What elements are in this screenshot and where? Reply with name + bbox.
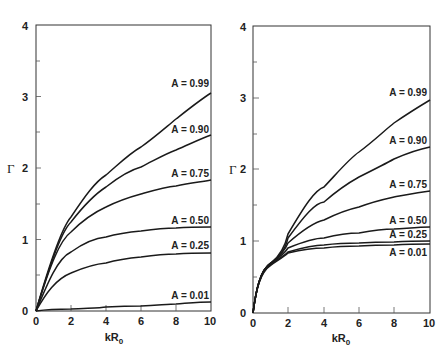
left-label-a099: A = 0.99 (171, 78, 209, 89)
right-xtick-10: 10 (423, 317, 435, 329)
left-y-ticks (36, 61, 41, 275)
left-xtick-8: 8 (173, 315, 179, 327)
right-xtick-4: 4 (321, 317, 328, 329)
right-label-a099: A = 0.99 (389, 87, 427, 98)
right-ytick-0: 0 (240, 307, 246, 319)
right-label-a050: A = 0.50 (389, 215, 427, 226)
left-xtick-2: 2 (68, 315, 74, 327)
left-label-a090: A = 0.90 (171, 124, 209, 135)
left-label-a050: A = 0.50 (171, 215, 209, 226)
right-label-a025: A = 0.25 (389, 229, 427, 240)
left-ytick-3: 3 (22, 91, 28, 103)
right-panel: 0 1 2 3 4 Γ 0 2 4 6 8 10 kR0 A = 0.99 A … (229, 21, 435, 347)
right-ytick-1: 1 (240, 235, 246, 247)
left-ytick-4: 4 (22, 20, 29, 32)
right-ytick-3: 3 (240, 92, 246, 104)
right-plot-frame (253, 26, 430, 313)
left-curve-a001 (36, 302, 211, 311)
right-y-ticks (253, 62, 259, 277)
right-curve-a099 (253, 100, 430, 313)
left-xtick-6: 6 (138, 315, 144, 327)
right-xtick-8: 8 (391, 317, 397, 329)
left-label-a025: A = 0.25 (171, 240, 209, 251)
left-ytick-1: 1 (22, 234, 28, 246)
left-xtick-4: 4 (103, 315, 110, 327)
left-x-axis-title: kR0 (105, 331, 124, 346)
right-xtick-2: 2 (285, 317, 291, 329)
right-curves (253, 100, 430, 313)
right-y-axis-title: Γ (229, 162, 237, 177)
right-xtick-0: 0 (250, 317, 256, 329)
left-ytick-0: 0 (22, 305, 28, 317)
right-ytick-4: 4 (240, 21, 247, 33)
right-x-axis-title: kR0 (332, 332, 351, 347)
left-curve-a025 (36, 253, 211, 311)
right-label-a090: A = 0.90 (389, 135, 427, 146)
right-label-a075: A = 0.75 (389, 179, 427, 190)
left-panel: 0 1 2 3 4 Γ 0 2 4 6 8 10 kR0 A = 0.99 A … (7, 20, 216, 346)
right-label-a001: A = 0.01 (389, 247, 427, 258)
left-xtick-10: 10 (204, 315, 216, 327)
figure: 0 1 2 3 4 Γ 0 2 4 6 8 10 kR0 A = 0.99 A … (0, 0, 447, 359)
left-label-a075: A = 0.75 (171, 168, 209, 179)
left-ytick-2: 2 (22, 162, 28, 174)
left-y-axis-title: Γ (7, 161, 15, 176)
right-ytick-2: 2 (240, 163, 246, 175)
left-xtick-0: 0 (33, 315, 39, 327)
left-label-a001: A = 0.01 (171, 290, 209, 301)
right-xtick-6: 6 (356, 317, 362, 329)
right-x-ticks (288, 307, 394, 313)
